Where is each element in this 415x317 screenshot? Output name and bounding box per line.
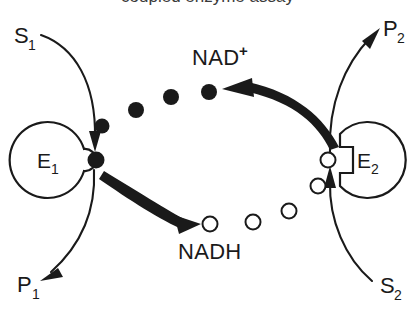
nadplus-marker-chain xyxy=(88,84,218,169)
enzyme-e1-subscript: 1 xyxy=(51,161,59,177)
substrate-s1-subscript: 1 xyxy=(28,37,36,53)
nadh-label-group: NADH xyxy=(178,239,242,264)
arrow-e2-to-nadplus-body xyxy=(248,82,339,150)
enzyme-e2-group[interactable]: E 2 xyxy=(340,122,406,198)
open-circle-marker xyxy=(246,215,261,230)
substrate-s2-subscript: 2 xyxy=(394,287,402,303)
arrow-e1-to-p1-head xyxy=(40,268,63,281)
coenzyme-cycle-diagram: coupled enzyme assay E 1 E 2 xyxy=(0,0,415,317)
open-circle-marker xyxy=(311,179,326,194)
filled-dot-marker xyxy=(201,84,217,100)
nadplus-superscript: + xyxy=(239,42,248,59)
label-s1-group: S 1 xyxy=(14,23,36,53)
nadplus-label-group: NAD + xyxy=(192,42,248,70)
diagram-canvas: E 1 E 2 xyxy=(0,0,415,317)
label-p1-group: P 1 xyxy=(17,272,40,302)
arrow-e1-to-nadh-head xyxy=(174,215,201,234)
enzyme-e2-shape xyxy=(340,122,406,198)
filled-dot-marker xyxy=(163,89,179,105)
product-p2-subscript: 2 xyxy=(397,30,405,46)
enzyme-e1-group[interactable]: E 1 xyxy=(10,122,96,198)
label-s2-group: S 2 xyxy=(380,273,402,303)
arrow-e2-to-p2-head xyxy=(362,28,380,49)
arrow-e2-to-nadplus xyxy=(222,78,339,150)
open-circle-marker xyxy=(321,153,336,168)
product-p2-label: P xyxy=(383,16,398,41)
open-circle-marker xyxy=(282,204,297,219)
product-p1-label: P xyxy=(17,272,32,297)
enzyme-e2-label: E xyxy=(357,149,371,172)
arrow-e1-to-nadh-body xyxy=(99,171,188,230)
product-p1-subscript: 1 xyxy=(32,286,40,302)
label-p2-group: P 2 xyxy=(383,16,405,46)
nadh-label: NADH xyxy=(178,239,242,264)
enzyme-e1-shape xyxy=(10,122,96,198)
nadh-marker-chain xyxy=(203,153,336,232)
filled-dot-marker xyxy=(88,152,105,169)
nadplus-label: NAD xyxy=(192,45,239,70)
substrate-s1-label: S xyxy=(14,23,29,48)
arrow-s1-to-e1-head xyxy=(89,131,101,152)
enzyme-e2-subscript: 2 xyxy=(371,161,379,177)
arrow-e1-to-nadh xyxy=(99,171,201,234)
filled-dot-marker xyxy=(128,102,144,118)
substrate-s2-label: S xyxy=(380,273,395,298)
filled-dot-marker xyxy=(95,119,110,134)
open-circle-marker xyxy=(203,217,218,232)
enzyme-e1-label: E xyxy=(37,149,51,172)
arrow-e2-to-nadplus-head xyxy=(222,78,254,97)
